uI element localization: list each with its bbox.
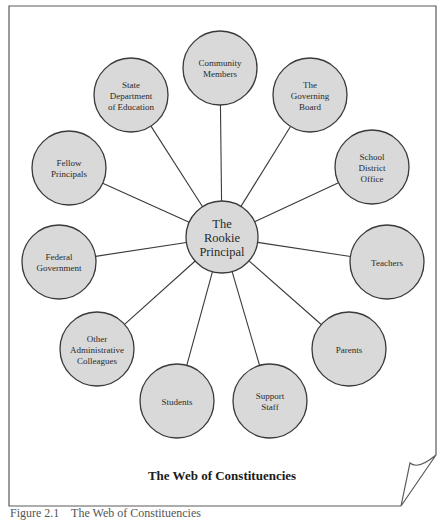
page-curl-icon xyxy=(401,455,436,506)
node-label-line: Office xyxy=(361,174,384,184)
node-label-line: Support xyxy=(256,391,285,401)
node-label-line: Parents xyxy=(336,345,363,355)
node-students: Students xyxy=(140,364,214,438)
node-fellow-principals: FellowPrincipals xyxy=(32,131,106,205)
node-label-line: Colleagues xyxy=(77,356,117,366)
diagram-title: The Web of Constituencies xyxy=(148,468,296,483)
node-label-line: School xyxy=(359,152,385,162)
connector-community-members xyxy=(220,105,221,201)
node-label-line: Principal xyxy=(199,245,245,259)
node-label-line: Governing xyxy=(291,91,330,101)
node-label-line: Board xyxy=(299,102,321,112)
node-label-line: Students xyxy=(161,397,193,407)
node-label-line: Members xyxy=(203,69,237,79)
connector-students xyxy=(187,272,213,366)
node-label-line: Fellow xyxy=(56,158,82,168)
connector-fellow-principals xyxy=(103,183,189,222)
center-node-rookie-principal: TheRookiePrincipal xyxy=(186,201,258,273)
connector-teachers xyxy=(258,242,351,256)
node-governing-board: TheGoverningBoard xyxy=(273,58,347,132)
connector-governing-board xyxy=(241,126,291,206)
node-parents: Parents xyxy=(312,312,386,386)
node-community-members: CommunityMembers xyxy=(183,31,257,105)
node-label-line: Rookie xyxy=(204,231,241,245)
node-label-line: District xyxy=(359,163,386,173)
node-school-district-office: SchoolDistrictOffice xyxy=(335,130,409,204)
node-support-staff: SupportStaff xyxy=(233,364,307,438)
node-label-line: Other xyxy=(87,334,108,344)
node-label-line: Teachers xyxy=(371,258,403,268)
node-label-line: Department xyxy=(110,91,153,101)
node-label-line: of Education xyxy=(108,102,155,112)
node-teachers: Teachers xyxy=(350,225,424,299)
node-label-line: The xyxy=(303,80,317,90)
node-label-line: Administrative xyxy=(70,345,124,355)
connector-state-department-of-education xyxy=(151,126,203,207)
node-label-line: The xyxy=(212,217,232,231)
figure-caption: Figure 2.1 The Web of Constituencies xyxy=(10,506,201,521)
node-label-line: State xyxy=(122,80,140,90)
node-label-line: Staff xyxy=(261,402,278,412)
node-label-line: Government xyxy=(37,263,82,273)
connector-parents xyxy=(249,261,321,325)
node-other-administrative-colleagues: OtherAdministrativeColleagues xyxy=(60,312,134,386)
node-label-line: Federal xyxy=(46,252,73,262)
node-state-department-of-education: StateDepartmentof Education xyxy=(94,58,168,132)
connector-federal-government xyxy=(96,242,187,256)
node-label-line: Community xyxy=(198,58,242,68)
connector-school-district-office xyxy=(255,183,339,222)
connector-support-staff xyxy=(232,272,259,366)
node-federal-government: FederalGovernment xyxy=(22,225,96,299)
connector-other-administrative-colleagues xyxy=(125,261,196,324)
node-label-line: Principals xyxy=(51,169,87,179)
